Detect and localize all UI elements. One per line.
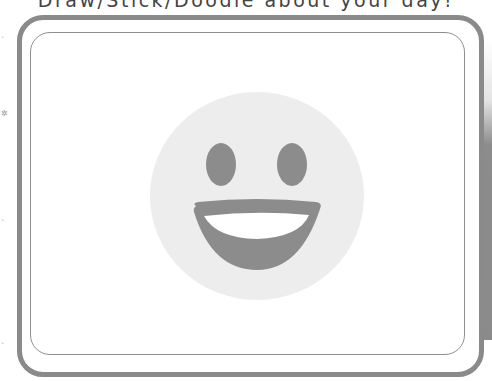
margin-mark-icon: ˎ [1,213,5,221]
star-mark-icon: ✲ [1,110,8,118]
prompt-title: Draw/Stick/Doodle about your day! [0,0,492,11]
margin-mark-icon: ˎ [1,336,5,344]
grinning-face-icon [148,90,366,302]
right-eye [277,143,307,186]
margin-mark-icon: ˎ [1,30,5,38]
left-eye [206,143,236,186]
